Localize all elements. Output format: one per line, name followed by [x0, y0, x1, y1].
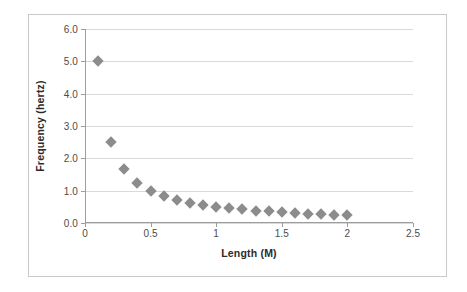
data-point-marker [315, 208, 326, 219]
data-point-marker [263, 206, 274, 217]
data-point-marker [211, 201, 222, 212]
data-point-marker [302, 208, 313, 219]
data-point-marker [237, 204, 248, 215]
gridline-y [85, 158, 413, 159]
data-point-marker [250, 205, 261, 216]
data-point-marker [158, 190, 169, 201]
data-point-marker [289, 207, 300, 218]
data-point-marker [92, 56, 103, 67]
data-point-marker [224, 203, 235, 214]
y-tick-label: 0.0 [64, 218, 78, 229]
chart-frame: Frequency (hertz) 0.01.02.03.04.05.06.0 … [28, 14, 447, 277]
data-point-marker [342, 209, 353, 220]
x-tick-label: 0 [82, 228, 88, 239]
y-tick-label: 3.0 [64, 121, 78, 132]
gridline-y [85, 191, 413, 192]
gridline-y [85, 61, 413, 62]
y-tick-mark [81, 61, 85, 62]
data-point-marker [106, 136, 117, 147]
x-tick-label: 0.5 [143, 228, 157, 239]
y-tick-label: 5.0 [64, 56, 78, 67]
x-axis-title: Length (M) [85, 247, 413, 259]
y-tick-mark [81, 29, 85, 30]
x-tick-mark [413, 223, 414, 227]
x-tick-label: 1 [213, 228, 219, 239]
y-tick-label: 2.0 [64, 153, 78, 164]
y-tick-label: 4.0 [64, 88, 78, 99]
x-tick-mark [347, 223, 348, 227]
gridline-y [85, 223, 413, 224]
data-point-marker [197, 199, 208, 210]
data-point-marker [329, 209, 340, 220]
gridline-y [85, 126, 413, 127]
y-axis-line [85, 29, 86, 223]
x-axis-line [85, 222, 413, 223]
data-point-marker [145, 185, 156, 196]
x-tick-mark [151, 223, 152, 227]
gridline-y [85, 94, 413, 95]
x-tick-label: 1.5 [275, 228, 289, 239]
plot-area: 0.01.02.03.04.05.06.0 00.511.522.5 [85, 29, 413, 223]
y-axis-title: Frequency (hertz) [33, 29, 47, 223]
x-tick-mark [85, 223, 86, 227]
y-axis-title-label: Frequency (hertz) [34, 80, 46, 172]
x-tick-label: 2 [345, 228, 351, 239]
x-tick-mark [282, 223, 283, 227]
data-point-marker [184, 197, 195, 208]
y-tick-mark [81, 191, 85, 192]
y-tick-mark [81, 126, 85, 127]
x-tick-label: 2.5 [406, 228, 420, 239]
y-tick-mark [81, 94, 85, 95]
x-tick-mark [216, 223, 217, 227]
data-point-marker [119, 163, 130, 174]
y-tick-label: 6.0 [64, 24, 78, 35]
y-tick-label: 1.0 [64, 185, 78, 196]
y-tick-mark [81, 158, 85, 159]
gridline-y [85, 29, 413, 30]
data-point-marker [132, 177, 143, 188]
data-point-marker [171, 194, 182, 205]
data-point-marker [276, 207, 287, 218]
